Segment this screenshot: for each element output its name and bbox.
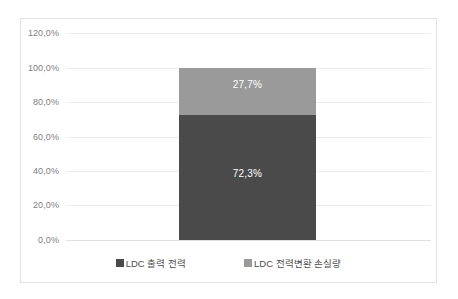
chart-frame: 120,0% 100,0% 80,0% 60,0% 40,0% 20,0% 0,… xyxy=(20,18,437,283)
ytick-label-0: 0,0% xyxy=(38,235,59,245)
legend-label-loss: LDC 전력변환 손실량 xyxy=(254,256,341,270)
plot-area: 120,0% 100,0% 80,0% 60,0% 40,0% 20,0% 0,… xyxy=(66,33,431,240)
legend-item-loss[interactable]: LDC 전력변환 손실량 xyxy=(244,256,341,270)
ytick-label-60: 60,0% xyxy=(33,132,59,142)
bar-label-loss: 27,7% xyxy=(179,78,316,89)
ytick-label-100: 100,0% xyxy=(28,63,59,73)
bar-segment-loss[interactable]: 27,7% xyxy=(179,68,316,116)
legend-swatch-icon-loss xyxy=(244,259,252,267)
stacked-bar[interactable]: 27,7% 72,3% xyxy=(179,68,316,240)
legend-swatch-icon-output xyxy=(116,259,124,267)
gridline-baseline-0: 0,0% xyxy=(66,240,431,241)
legend-item-output[interactable]: LDC 출력 전력 xyxy=(116,256,186,270)
ytick-label-80: 80,0% xyxy=(33,97,59,107)
ytick-label-20: 20,0% xyxy=(33,200,59,210)
gridline-120: 120,0% xyxy=(66,33,431,34)
bar-segment-output[interactable]: 72,3% xyxy=(179,115,316,240)
ytick-label-40: 40,0% xyxy=(33,166,59,176)
bar-label-output: 72,3% xyxy=(179,167,316,178)
ytick-label-120: 120,0% xyxy=(28,28,59,38)
legend-label-output: LDC 출력 전력 xyxy=(126,256,186,270)
chart-legend: LDC 출력 전력 LDC 전력변환 손실량 xyxy=(21,256,436,270)
